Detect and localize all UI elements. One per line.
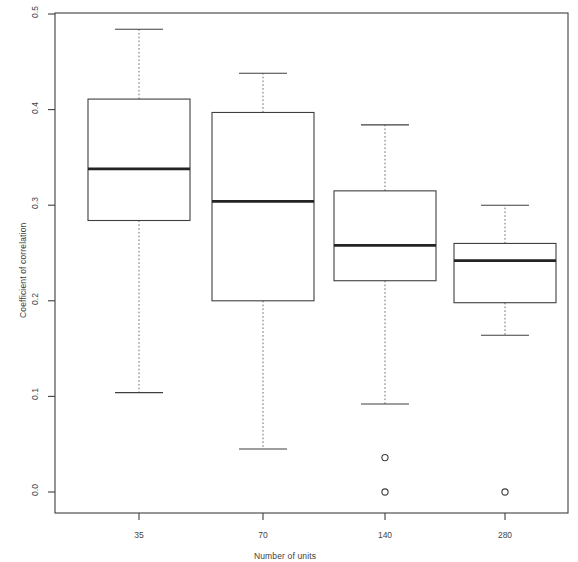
x-axis-tick-label: 70 xyxy=(243,530,283,540)
box-plot-35 xyxy=(88,29,190,392)
y-axis-tick-label: 0.5 xyxy=(30,0,40,25)
box-iqr xyxy=(454,243,556,302)
plot-canvas xyxy=(0,0,578,562)
y-axis-title: Coefficient of correlation xyxy=(18,223,28,318)
x-axis-ticks xyxy=(139,513,505,520)
box-plot-70 xyxy=(212,73,314,449)
boxplot-figure: Coefficient of correlation Number of uni… xyxy=(0,0,578,562)
box-plot-140 xyxy=(334,125,436,495)
y-axis-ticks xyxy=(48,14,55,492)
x-axis-tick-label: 280 xyxy=(485,530,525,540)
outlier-point xyxy=(382,454,388,460)
box-iqr xyxy=(334,191,436,281)
y-axis-tick-label: 0.2 xyxy=(30,286,40,312)
y-axis-tick-label: 0.4 xyxy=(30,95,40,121)
x-axis-title: Number of units xyxy=(0,551,574,561)
x-axis-tick-label: 35 xyxy=(119,530,159,540)
x-axis-tick-label: 140 xyxy=(365,530,405,540)
outlier-point xyxy=(382,489,388,495)
box-iqr xyxy=(212,112,314,300)
y-axis-tick-label: 0.0 xyxy=(30,477,40,503)
y-axis-tick-label: 0.1 xyxy=(30,381,40,407)
box-iqr xyxy=(88,99,190,220)
outlier-point xyxy=(502,489,508,495)
box-plot-series xyxy=(88,29,556,495)
box-plot-280 xyxy=(454,205,556,495)
y-axis-tick-label: 0.3 xyxy=(30,190,40,216)
